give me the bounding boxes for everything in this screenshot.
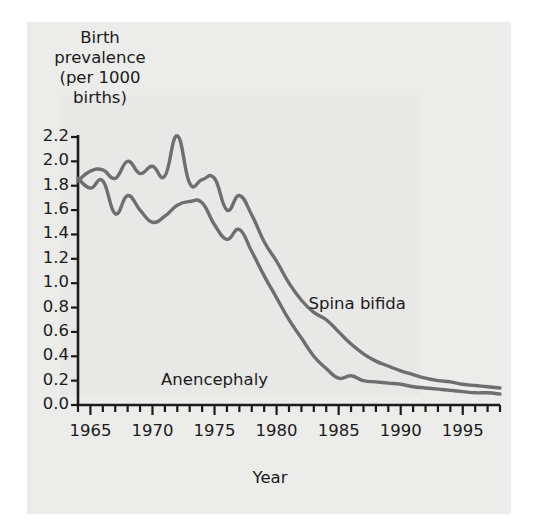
y-axis-tick-label: 1.8 xyxy=(27,175,69,194)
y-axis-tick-label: 0.0 xyxy=(27,394,69,413)
y-axis-tick-label: 1.6 xyxy=(27,199,69,218)
chart-plot xyxy=(0,0,544,520)
x-axis-tick-label: 1985 xyxy=(309,421,369,440)
series-group xyxy=(78,136,500,394)
x-axis-tick-label: 1980 xyxy=(247,421,307,440)
y-axis-tick-label: 2.0 xyxy=(27,150,69,169)
y-axis-tick-label: 0.4 xyxy=(27,345,69,364)
x-axis-tick-label: 1990 xyxy=(371,421,431,440)
x-axis-tick-label: 1995 xyxy=(433,421,493,440)
figure-container: Birthprevalence(per 1000births) Year 0.0… xyxy=(0,0,544,520)
x-axis-tick-label: 1970 xyxy=(122,421,182,440)
y-axis-tick-label: 1.0 xyxy=(27,272,69,291)
y-axis-tick-label: 0.2 xyxy=(27,370,69,389)
y-axis-tick-label: 1.4 xyxy=(27,223,69,242)
series-annotation-anencephaly: Anencephaly xyxy=(161,370,268,389)
x-axis-tick-label: 1965 xyxy=(60,421,120,440)
y-axis-tick-label: 0.6 xyxy=(27,321,69,340)
y-axis-tick-label: 0.8 xyxy=(27,297,69,316)
y-axis-tick-label: 2.2 xyxy=(27,126,69,145)
series-annotation-spina-bifida: Spina bifida xyxy=(309,294,406,313)
series-line-spina-bifida xyxy=(78,136,500,388)
x-axis-tick-label: 1975 xyxy=(185,421,245,440)
y-axis-tick-label: 1.2 xyxy=(27,248,69,267)
